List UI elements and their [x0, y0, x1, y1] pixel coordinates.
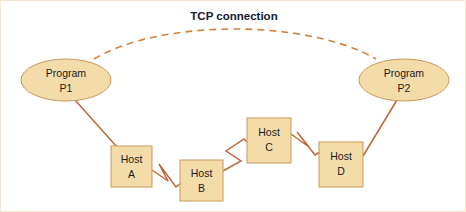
host-b-label-line1: Host [191, 167, 213, 179]
link-host-c-host-d [291, 132, 320, 155]
program-node-p2[interactable]: Program P2 [359, 59, 449, 101]
program-p1-label-line1: Program [46, 67, 87, 79]
host-node-b[interactable]: Host B [180, 160, 223, 201]
program-node-p1[interactable]: Program P1 [21, 59, 111, 101]
host-node-d[interactable]: Host D [319, 142, 363, 187]
program-p2-ellipse [359, 59, 449, 101]
diagram-title: TCP connection [190, 10, 277, 22]
host-a-label-line1: Host [121, 153, 143, 165]
link-program-p1-host-a [75, 100, 117, 147]
program-p2-label-line2: P2 [398, 82, 411, 94]
host-c-label-line2: C [265, 141, 273, 153]
host-d-label-line1: Host [330, 150, 352, 162]
host-c-label-line1: Host [258, 126, 280, 138]
program-p1-ellipse [21, 59, 111, 101]
host-d-label-line2: D [337, 165, 345, 177]
link-host-d-program-p2 [363, 100, 397, 156]
tcp-connection-arc [94, 29, 376, 59]
diagram-canvas: Program P1 Program P2 Host A Host B Host… [1, 1, 466, 212]
tcp-connection-diagram: Program P1 Program P2 Host A Host B Host… [0, 0, 466, 212]
program-p1-label-line2: P1 [60, 82, 73, 94]
program-p2-label-line1: Program [384, 67, 425, 79]
host-node-a[interactable]: Host A [111, 146, 152, 187]
host-a-label-line2: A [128, 168, 135, 180]
link-host-b-host-c [223, 139, 247, 171]
link-host-a-host-b [152, 164, 181, 187]
host-node-c[interactable]: Host C [247, 118, 291, 163]
host-b-label-line2: B [198, 182, 205, 194]
